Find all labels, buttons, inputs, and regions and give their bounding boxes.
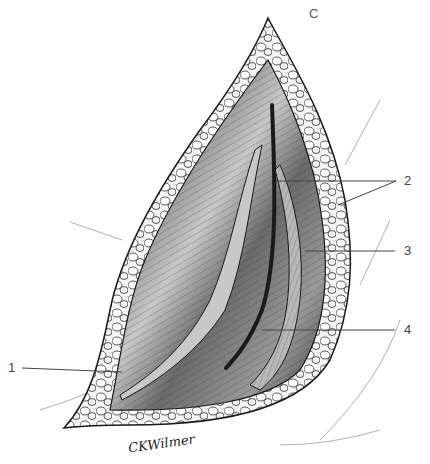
label-3: 3 [404, 243, 411, 258]
anatomical-illustration [0, 0, 430, 464]
label-4: 4 [404, 322, 411, 337]
label-1: 1 [8, 360, 15, 375]
panel-letter: C [309, 6, 318, 21]
label-2: 2 [404, 173, 411, 188]
